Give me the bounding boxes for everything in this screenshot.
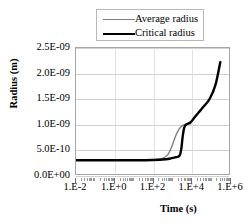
- x-minor-tick: [100, 178, 101, 181]
- y-axis-tick-labels: 0.0E+005.0E-101.0E-091.5E-092.0E-092.5E-…: [6, 47, 70, 175]
- series-line-critical-radius: [76, 62, 220, 160]
- legend-item-critical-radius: Critical radius: [97, 26, 203, 40]
- legend-line-average-radius-icon: [101, 14, 135, 24]
- x-minor-tick: [153, 178, 154, 183]
- x-minor-tick: [142, 178, 143, 181]
- x-minor-tick: [133, 178, 134, 181]
- x-minor-tick: [197, 178, 198, 181]
- x-minor-tick: [94, 178, 95, 181]
- x-minor-tick: [123, 178, 124, 181]
- x-minor-tick: [216, 178, 217, 181]
- legend-label-average-radius: Average radius: [135, 13, 198, 25]
- legend-label-critical-radius: Critical radius: [135, 27, 195, 39]
- x-minor-tick: [172, 178, 173, 181]
- x-minor-tick: [181, 178, 182, 181]
- x-minor-tick: [114, 178, 115, 183]
- x-minor-tick: [184, 178, 185, 181]
- y-tick-label: 1.5E-09: [8, 93, 70, 103]
- x-minor-tick: [120, 178, 121, 181]
- x-minor-tick: [164, 178, 165, 181]
- x-minor-tick: [162, 178, 163, 181]
- x-minor-tick: [222, 178, 223, 181]
- x-minor-tick: [104, 178, 105, 181]
- x-minor-tick: [200, 178, 201, 181]
- x-minor-tick: [145, 178, 146, 181]
- x-minor-tick: [191, 178, 192, 183]
- y-tick-label: 1.0E-09: [8, 119, 70, 129]
- y-tick-label: 0.0E+00: [8, 170, 70, 180]
- x-minor-tick: [158, 178, 159, 181]
- series-line-average-radius: [76, 124, 191, 160]
- data-curves: [76, 48, 229, 174]
- x-minor-tick: [125, 178, 126, 181]
- x-minor-tick: [178, 178, 179, 181]
- y-tick-label: 2.5E-09: [8, 42, 70, 52]
- x-minor-tick: [230, 178, 231, 183]
- legend-line-critical-radius-icon: [101, 28, 135, 38]
- x-minor-tick: [106, 178, 107, 181]
- x-minor-tick: [220, 178, 221, 181]
- x-axis-title: Time (s): [160, 203, 240, 214]
- y-tick-label: 5.0E-10: [8, 144, 70, 154]
- y-tick-label: 2.0E-09: [8, 68, 70, 78]
- x-axis-tick-labels: 1.E-21.E+01.E+21.E+41.E+6: [75, 179, 230, 193]
- x-minor-tick: [203, 178, 204, 181]
- x-minor-tick: [87, 178, 88, 181]
- x-minor-tick: [139, 178, 140, 181]
- x-minor-tick: [84, 178, 85, 181]
- gridline-horizontal: [76, 176, 229, 177]
- plot-area: [75, 47, 230, 175]
- legend-item-average-radius: Average radius: [97, 12, 203, 26]
- chart-container: Average radius Critical radius Radius (m…: [0, 0, 252, 224]
- x-minor-tick: [211, 178, 212, 181]
- chart-legend: Average radius Critical radius: [96, 9, 204, 41]
- x-minor-tick: [75, 178, 76, 183]
- x-minor-tick: [81, 178, 82, 181]
